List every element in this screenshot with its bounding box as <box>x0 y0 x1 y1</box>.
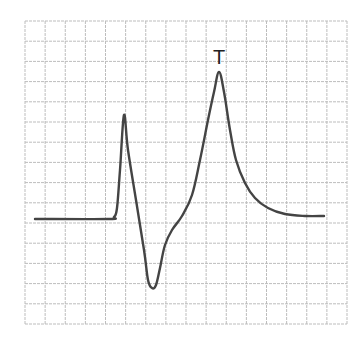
t-wave-label: T <box>213 47 225 67</box>
ecg-trace <box>35 72 324 288</box>
grid-lines <box>25 21 347 324</box>
ecg-grid-plot <box>0 0 362 339</box>
ecg-figure: T <box>0 0 362 339</box>
